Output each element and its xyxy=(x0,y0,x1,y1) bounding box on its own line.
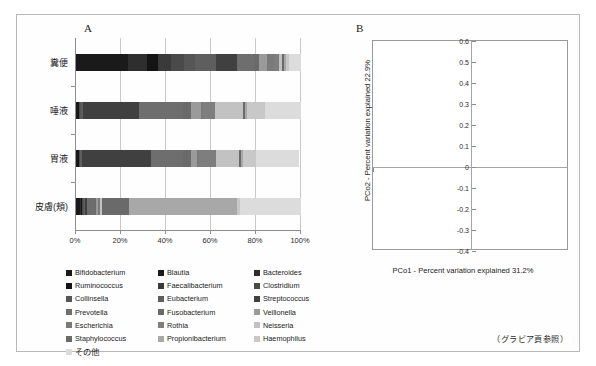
panel-b-x-zero-axis xyxy=(373,167,567,168)
legend-item: Blautia xyxy=(158,266,254,279)
panel-b-plot-area: -0.4-0.3-0.2-0.100.10.20.30.40.50.6 xyxy=(372,40,568,250)
panel-a-bar-segment xyxy=(82,150,152,167)
panel-a-bar-segment xyxy=(128,54,147,71)
panel-a-letter: A xyxy=(84,22,92,34)
panel-a-bar-segment xyxy=(215,102,243,119)
legend-label: Ruminococcus xyxy=(75,282,123,289)
panel-a-category-label: 胃液 xyxy=(50,152,68,165)
panel-a-x-axis xyxy=(75,230,300,231)
panel-b-y-tick xyxy=(472,41,476,42)
panel-b-y-tick-label: -0.2 xyxy=(449,206,469,213)
legend-swatch-icon xyxy=(254,336,260,342)
panel-a-bar-segment xyxy=(184,54,195,71)
panel-a-bar-segment xyxy=(256,150,299,167)
panel-b-y-axis-title: PCo2 - Percent variation explained 22.9% xyxy=(363,56,372,206)
panel-a-stacked-bar-chart: A 0%20%40%60%80%100%糞便唾液胃液皮膚(頬) Bifidoba… xyxy=(18,16,336,346)
legend-swatch-icon xyxy=(254,296,260,302)
panel-a-x-tick xyxy=(75,230,76,234)
legend-item: Veillonella xyxy=(254,306,338,319)
legend-swatch-icon xyxy=(158,283,164,289)
panel-b-y-tick-label: -0.4 xyxy=(449,248,469,255)
legend-item: Bifidobacterium xyxy=(66,266,158,279)
panel-a-x-tick xyxy=(120,230,121,234)
panel-a-x-tick-label: 60% xyxy=(202,236,217,245)
panel-b-y-tick-label: 0.3 xyxy=(449,101,469,108)
legend-swatch-icon xyxy=(66,296,72,302)
panel-a-bar-segment xyxy=(216,150,239,167)
legend-swatch-icon xyxy=(66,309,72,315)
panel-a-bar-segment xyxy=(158,54,170,71)
panel-a-x-tick-label: 0% xyxy=(70,236,81,245)
legend-item: Clostridium xyxy=(254,279,338,292)
panel-a-x-tick-label: 40% xyxy=(157,236,172,245)
panel-b-y-tick xyxy=(472,251,476,252)
panel-a-category-label: 糞便 xyxy=(50,56,68,69)
panel-b-y-zero-axis xyxy=(471,41,472,249)
panel-b-y-tick xyxy=(472,125,476,126)
panel-b-y-tick-label: -0.1 xyxy=(449,185,469,192)
panel-b-y-tick xyxy=(472,167,476,168)
legend-label: Staphylococcus xyxy=(75,335,126,342)
panel-a-bar-segment xyxy=(199,150,216,167)
panel-a-bar-segment xyxy=(247,102,265,119)
legend-swatch-icon xyxy=(66,349,72,355)
panel-a-x-tick-label: 20% xyxy=(112,236,127,245)
panel-a-x-tick xyxy=(300,230,301,234)
legend-item: Collinsella xyxy=(66,292,158,305)
panel-a-bar-segment xyxy=(129,198,237,215)
panel-b-y-tick-label: -0.3 xyxy=(449,227,469,234)
legend-label: Haemophilus xyxy=(263,335,306,342)
panel-a-category-label: 唾液 xyxy=(50,104,68,117)
panel-b-y-tick-label: 0.2 xyxy=(449,122,469,129)
panel-a-bar-segment xyxy=(243,150,255,167)
panel-b-y-tick xyxy=(472,230,476,231)
legend-swatch-icon xyxy=(66,322,72,328)
panel-a-category-label: 皮膚(頬) xyxy=(35,200,68,213)
panel-a-legend: BifidobacteriumBlautiaBacteroidesRuminoc… xyxy=(66,266,338,358)
legend-label: Bacteroides xyxy=(263,269,302,276)
panel-a-bar-segment xyxy=(76,54,108,71)
panel-a-bar-1 xyxy=(76,54,301,71)
legend-swatch-icon xyxy=(66,283,72,289)
panel-a-bar-segment xyxy=(83,102,139,119)
legend-item: Escherichia xyxy=(66,319,158,332)
legend-swatch-icon xyxy=(66,336,72,342)
panel-a-y-tick xyxy=(71,182,75,183)
panel-a-bar-segment xyxy=(139,102,183,119)
legend-label: Collinsella xyxy=(75,295,108,302)
panel-a-plot-area: 0%20%40%60%80%100%糞便唾液胃液皮膚(頬) xyxy=(75,38,300,230)
panel-b-x-tick xyxy=(373,168,374,172)
legend-item: Neisseria xyxy=(254,319,338,332)
panel-a-bar-2 xyxy=(76,102,301,119)
legend-swatch-icon xyxy=(254,270,260,276)
figure-root: A 0%20%40%60%80%100%糞便唾液胃液皮膚(頬) Bifidoba… xyxy=(0,0,596,366)
panel-a-bar-3 xyxy=(76,150,301,167)
panel-b-y-tick-label: 0.6 xyxy=(449,38,469,45)
panel-a-bar-segment xyxy=(195,54,215,71)
legend-label: Clostridium xyxy=(263,282,300,289)
panel-a-x-tick xyxy=(210,230,211,234)
legend-item: Propionibacterium xyxy=(158,332,254,345)
panel-a-bar-segment xyxy=(102,198,129,215)
panel-a-bar-segment xyxy=(191,102,201,119)
figure-note: （グラビア頁参照） xyxy=(492,332,568,344)
panel-b-y-tick xyxy=(472,83,476,84)
panel-a-bar-segment xyxy=(240,198,301,215)
legend-item: Rothia xyxy=(158,319,254,332)
legend-swatch-icon xyxy=(158,309,164,315)
legend-item: その他 xyxy=(66,345,158,358)
legend-swatch-icon xyxy=(158,296,164,302)
panel-a-bar-segment xyxy=(183,150,191,167)
legend-swatch-icon xyxy=(158,336,164,342)
legend-label: Fusobacterium xyxy=(167,309,215,316)
legend-item: Staphylococcus xyxy=(66,332,158,345)
panel-a-bar-segment xyxy=(108,54,128,71)
legend-label: Faecalibacterium xyxy=(167,282,223,289)
panel-b-y-tick xyxy=(472,209,476,210)
legend-label: Rothia xyxy=(167,322,188,329)
panel-b-y-tick xyxy=(472,62,476,63)
panel-a-bar-segment xyxy=(183,102,191,119)
legend-item: Faecalibacterium xyxy=(158,279,254,292)
panel-b-y-tick xyxy=(472,146,476,147)
legend-label: Neisseria xyxy=(263,322,293,329)
